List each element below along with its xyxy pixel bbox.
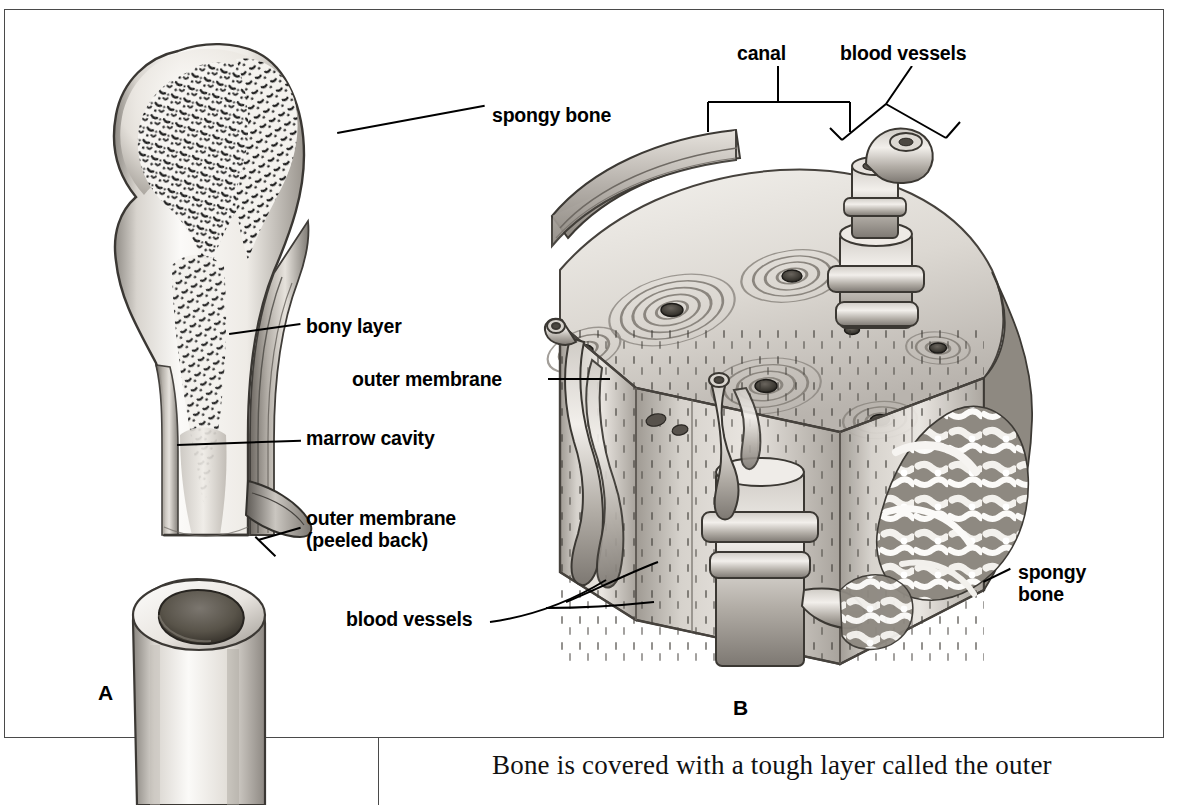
leaders-blood-vessels-bottom: [486, 560, 666, 640]
panel-a-artwork: [60, 15, 390, 575]
label-spongy-bone-b-line2: bone: [1018, 583, 1064, 605]
panel-a-letter: A: [98, 681, 113, 705]
panel-a-shaft-artwork: [115, 565, 295, 805]
label-outer-membrane-peeled-line1: outer membrane: [306, 507, 456, 529]
bracket-blood-vessels-top: [820, 66, 990, 162]
label-spongy-bone-b-line1: spongy: [1018, 561, 1086, 583]
label-outer-membrane-b: outer membrane: [352, 368, 502, 390]
label-marrow-cavity: marrow cavity: [306, 427, 435, 449]
label-outer-membrane-peeled-line2: (peeled back): [306, 529, 428, 551]
figure-page: A spongy bone bony layer marrow cavity o…: [0, 0, 1177, 805]
label-blood-vessels-bottom: blood vessels: [346, 608, 472, 630]
label-canal: canal: [737, 42, 786, 64]
panel-b-letter: B: [733, 696, 748, 720]
leader-outer-membrane-b: [548, 378, 610, 380]
label-bony-layer: bony layer: [306, 315, 402, 337]
caption-paragraph: Bone is covered with a tough layer calle…: [492, 748, 1172, 782]
label-blood-vessels-top: blood vessels: [840, 42, 966, 64]
